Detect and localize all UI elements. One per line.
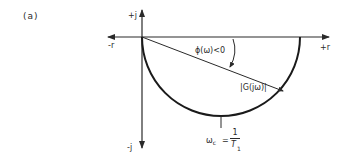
fraction-numerator: 1	[230, 128, 240, 137]
fraction-denominator-subscript: 1	[237, 145, 241, 152]
phase-angle-label: ϕ(ω)<0	[195, 47, 225, 55]
negative-imag-label: -j	[127, 144, 132, 152]
corner-frequency-equals: =	[222, 137, 229, 145]
polar-plot-figure: (a) +j -r +r -j ϕ(ω)<0 |G(jω)| ωc = 1 T …	[0, 0, 349, 162]
magnitude-label: |G(jω)|	[240, 84, 267, 92]
omega-symbol: ω	[206, 136, 213, 145]
positive-imag-label: +j	[128, 12, 137, 20]
panel-label: (a)	[23, 12, 39, 21]
positive-real-label: +r	[320, 44, 330, 52]
fraction-denominator: T	[231, 140, 236, 149]
corner-frequency-omega: ωc	[206, 137, 216, 145]
omega-subscript: c	[213, 139, 216, 146]
negative-real-label: -r	[108, 42, 114, 50]
fraction-bar	[230, 138, 240, 139]
phase-angle-arc	[230, 39, 235, 67]
polar-plot-canvas	[0, 0, 349, 162]
